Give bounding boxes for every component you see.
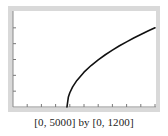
curve-series bbox=[67, 28, 155, 107]
window-range-caption: [0, 5000] by [0, 1200] bbox=[0, 116, 168, 128]
tick-marks bbox=[13, 28, 155, 107]
axes bbox=[13, 11, 156, 107]
